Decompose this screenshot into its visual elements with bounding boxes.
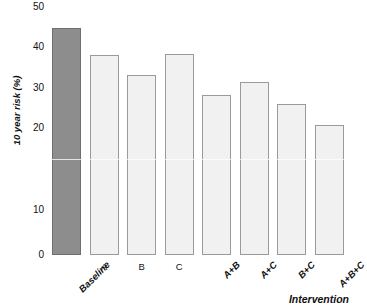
x-tick-label: C bbox=[176, 261, 183, 272]
bar[interactable] bbox=[52, 28, 81, 256]
bar-slot bbox=[86, 5, 124, 255]
bar-slot bbox=[311, 5, 349, 255]
bar[interactable] bbox=[165, 54, 194, 256]
x-tick-label: A+B+C bbox=[337, 259, 367, 289]
x-tick-label: B bbox=[139, 261, 145, 272]
bar-series bbox=[48, 5, 348, 255]
bar[interactable] bbox=[315, 125, 344, 255]
chart-title-cropped bbox=[0, 0, 355, 3]
x-axis-title: Intervention bbox=[289, 293, 349, 305]
x-tick-label: A+B bbox=[220, 259, 241, 280]
bar[interactable] bbox=[127, 75, 156, 255]
x-tick-label: A+C bbox=[258, 259, 279, 280]
y-tick-label: 0 bbox=[18, 250, 44, 260]
bar-slot bbox=[236, 5, 274, 255]
bar-slot bbox=[198, 5, 236, 255]
bar-slot bbox=[161, 5, 199, 255]
y-tick-label: 20 bbox=[18, 123, 44, 133]
bar-slot bbox=[273, 5, 311, 255]
x-tick-label: B+C bbox=[295, 259, 316, 280]
bar[interactable] bbox=[277, 104, 306, 256]
y-axis-ticks: 50 40 30 20 10 0 bbox=[14, 0, 44, 270]
bar[interactable] bbox=[90, 55, 119, 255]
y-tick-label: 40 bbox=[18, 42, 44, 52]
bar-slot bbox=[123, 5, 161, 255]
bar-slot bbox=[48, 5, 86, 255]
y-tick-label: 50 bbox=[18, 2, 44, 12]
plot-area bbox=[48, 5, 348, 255]
x-tick-label: A bbox=[101, 261, 107, 272]
bar[interactable] bbox=[202, 95, 231, 255]
y-tick-label: 30 bbox=[18, 83, 44, 93]
y-tick-label: 10 bbox=[18, 205, 44, 215]
bar[interactable] bbox=[240, 82, 269, 256]
